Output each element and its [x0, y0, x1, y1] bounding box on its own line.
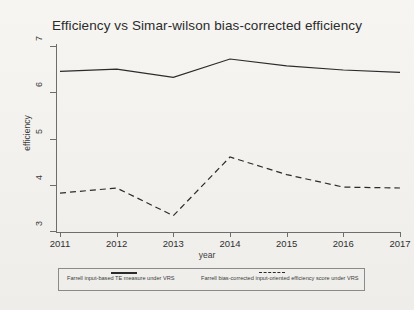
series-line-solid — [60, 59, 400, 77]
legend-label-dashed: Farrell bias-corrected input-oriented ef… — [201, 275, 359, 281]
series-line-dashed — [60, 157, 400, 216]
legend-label-solid: Farrell input-based TE measure under VRS — [67, 275, 174, 281]
legend-swatch-dashed — [259, 272, 285, 273]
series-canvas — [0, 0, 414, 310]
chart-page: Efficiency vs Simar-wilson bias-correcte… — [0, 0, 414, 310]
legend-box: Farrell input-based TE measure under VRS… — [58, 268, 365, 291]
legend-swatch-solid — [111, 272, 137, 274]
plot-area: Efficiency vs Simar-wilson bias-correcte… — [0, 0, 414, 310]
